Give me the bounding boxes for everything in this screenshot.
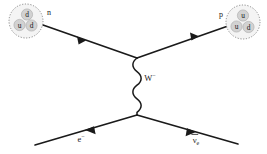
proton-quark-label-1: u	[241, 11, 245, 20]
antineutrino-propagator-line	[137, 115, 238, 144]
electron-label: e−	[77, 133, 85, 144]
proton-quark-label-2: u	[235, 22, 239, 31]
w-boson-charge: −	[152, 72, 156, 78]
proton-symbol-label: p	[219, 10, 223, 19]
neutron-symbol-label: n	[47, 8, 51, 17]
feynman-diagram-svg: d u d n u u d p W− e− νe	[0, 0, 267, 154]
neutron-propagator-line	[43, 25, 137, 58]
proton-propagator-line	[137, 26, 228, 58]
proton-quark-label-3: d	[247, 23, 251, 32]
proton-direction-arrowhead	[190, 33, 199, 41]
feynman-diagram-canvas: d u d n u u d p W− e− νe	[0, 0, 267, 154]
w-boson-symbol: W	[144, 73, 152, 83]
antineutrino-label-group: νe	[191, 134, 199, 146]
electron-direction-arrowhead	[85, 126, 96, 134]
antineutrino-subscript: e	[197, 140, 200, 146]
electron-propagator-line	[35, 115, 137, 145]
neutron-particle-group: d u d n	[9, 4, 51, 38]
neutron-quark-label-3: d	[30, 21, 34, 30]
electron-charge: −	[81, 133, 85, 139]
neutron-quark-label-2: u	[18, 21, 22, 30]
w-boson-label: W−	[144, 72, 156, 83]
antineutrino-label: νe	[193, 135, 200, 146]
proton-particle-group: u u d p	[219, 5, 260, 39]
w-boson-wavy-line	[133, 58, 141, 115]
neutron-quark-label-1: d	[25, 10, 29, 19]
